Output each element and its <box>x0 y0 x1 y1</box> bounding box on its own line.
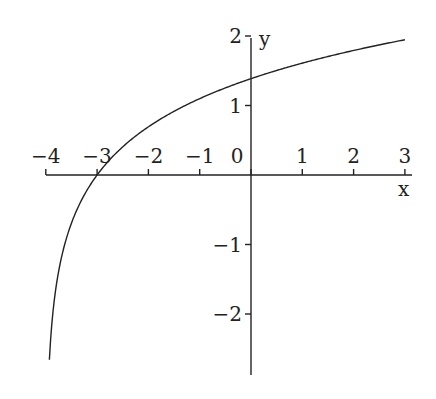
chart: −4−3−2−10123 21−1−2 x y <box>0 0 436 399</box>
x-tick-label: −4 <box>31 144 60 168</box>
x-tick-label: 2 <box>347 144 360 168</box>
x-axis-label: x <box>398 177 410 201</box>
y-tick-label: 1 <box>229 94 242 118</box>
y-tick-label: −2 <box>213 302 242 326</box>
x-tick-label: 3 <box>399 144 412 168</box>
x-tick-label: 1 <box>296 144 309 168</box>
x-tick-label: −1 <box>185 144 214 168</box>
y-axis-label: y <box>258 27 271 51</box>
x-tick-label: −2 <box>134 144 163 168</box>
x-ticks: −4−3−2−10123 <box>31 144 411 175</box>
x-tick-label: 0 <box>231 144 244 168</box>
y-tick-label: 2 <box>229 24 242 48</box>
x-tick-label: −3 <box>82 144 111 168</box>
y-tick-label: −1 <box>213 233 242 257</box>
